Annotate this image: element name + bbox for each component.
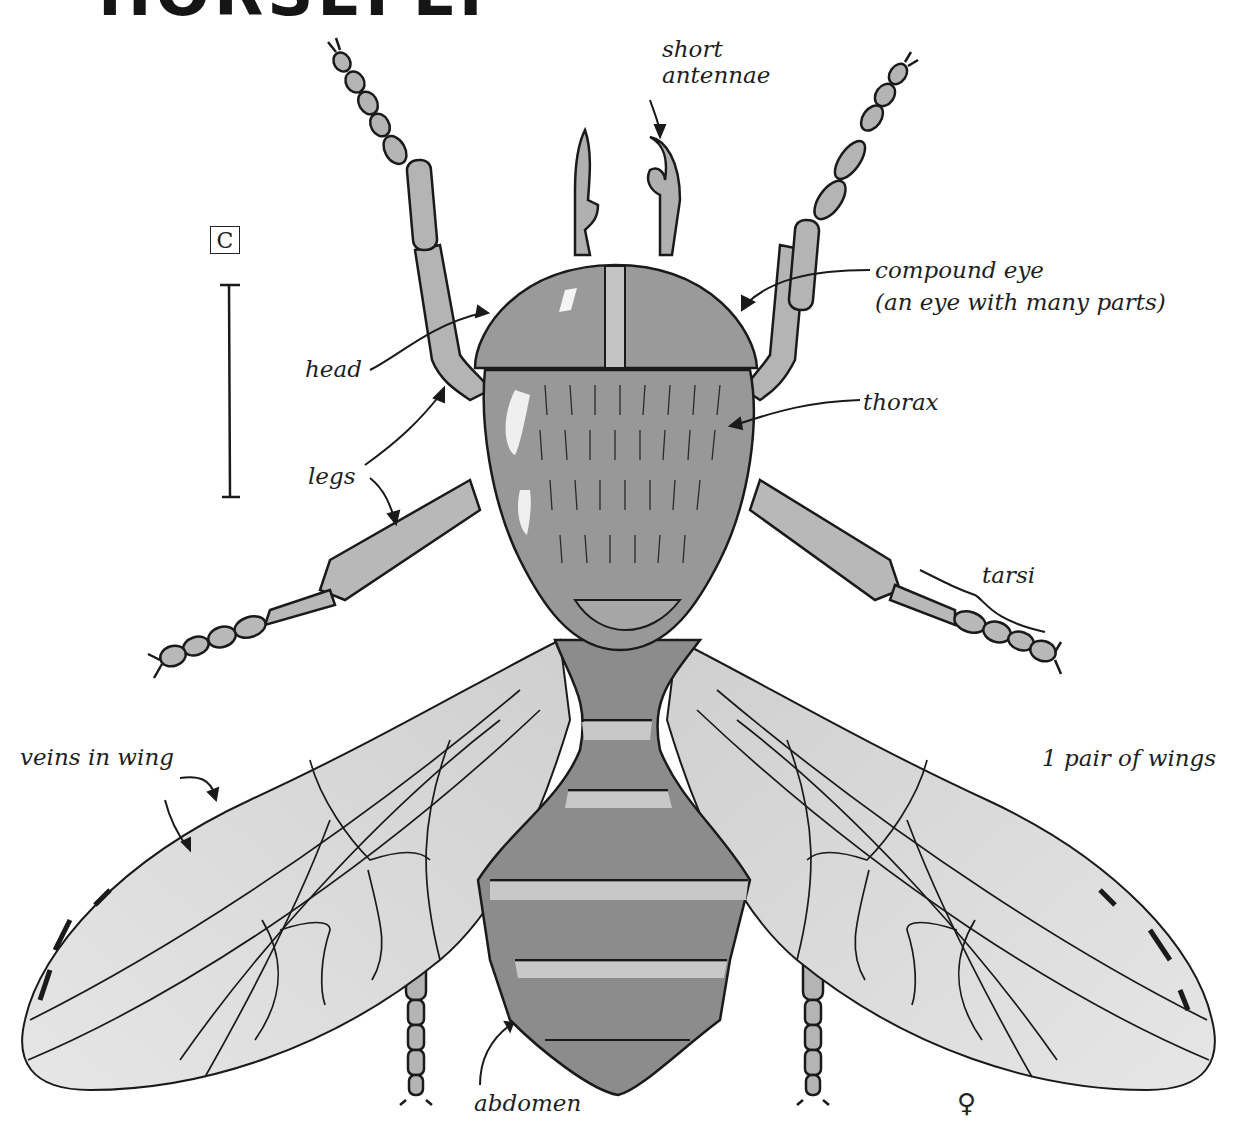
label-compound-eye: compound eye (an eye with many parts) [875,257,1166,315]
thorax [484,370,754,650]
horsefly-illustration [0,0,1237,1134]
antennae [575,130,680,255]
label-thorax: thorax [863,389,939,415]
middle-leg-left [148,480,480,678]
label-antennae-line1: short [662,36,770,62]
scale-marker-box: C [210,226,240,254]
label-veins: veins in wing [20,744,174,770]
head [475,265,757,368]
label-compound-eye-line2: (an eye with many parts) [875,289,1166,315]
label-abdomen: abdomen [474,1090,581,1116]
label-head: head [305,356,362,382]
label-legs: legs [308,463,356,489]
front-leg-right [745,52,918,400]
label-wings: 1 pair of wings [1042,745,1216,771]
label-antennae: short antennae [662,36,770,88]
label-tarsi: tarsi [982,562,1035,588]
label-antennae-line2: antennae [662,62,770,88]
scale-bar [220,285,240,497]
wing-right [667,640,1215,1090]
label-compound-eye-line1: compound eye [875,257,1166,283]
female-symbol-icon: ♀ [957,1088,976,1118]
